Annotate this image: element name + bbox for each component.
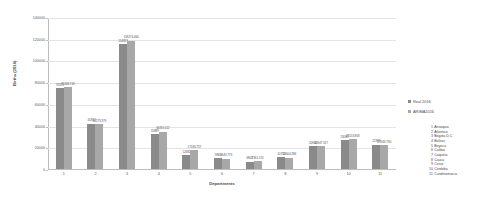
department-name: Cordoba bbox=[434, 167, 447, 171]
bar-value-label: 17180.757 bbox=[188, 146, 202, 149]
bar: 114823 bbox=[119, 44, 127, 169]
plot-area: 020000400006000080000100000120000140000 … bbox=[48, 18, 396, 170]
bar: 17180.757 bbox=[190, 150, 198, 169]
bar-value-label: 20947.317 bbox=[314, 142, 328, 145]
bar-group: 3188934416.112 bbox=[143, 18, 175, 169]
x-tick-label: 7 bbox=[238, 172, 270, 176]
y-tick-label: 100000 bbox=[12, 59, 45, 63]
y-tick-label: 40000 bbox=[12, 125, 45, 129]
bar: 41173.379 bbox=[95, 124, 103, 169]
x-tick-label: 11 bbox=[364, 172, 396, 176]
bar-group: 68027361.191 bbox=[238, 18, 270, 169]
x-tick-label: 3 bbox=[111, 172, 143, 176]
legend-label: Real 2016 bbox=[413, 99, 431, 104]
bar-group: 4183241173.379 bbox=[80, 18, 112, 169]
bar-value-label: 9643.773 bbox=[220, 154, 232, 157]
y-tick-label: 80000 bbox=[12, 81, 45, 85]
bar-value-label: 118274.460 bbox=[124, 36, 139, 39]
bar: 10604.384 bbox=[285, 158, 293, 170]
department-name: Caqueta bbox=[434, 153, 447, 157]
bar-value-label: 7361.191 bbox=[252, 157, 264, 160]
series-legend: Real 2016ARIMA2016 bbox=[408, 99, 434, 119]
bar: 12682 bbox=[182, 155, 190, 169]
bar: 7361.191 bbox=[254, 161, 262, 169]
x-tick-label: 4 bbox=[143, 172, 175, 176]
bar: 41832 bbox=[87, 124, 95, 169]
bar: 22389 bbox=[372, 145, 380, 169]
department-legend: 1Antioquia2Atlantico3Bogota D.C4Bolivar5… bbox=[428, 125, 457, 176]
department-name: Atlantico bbox=[434, 130, 447, 134]
bar: 20947.317 bbox=[317, 146, 325, 169]
legend-item[interactable]: Real 2016 bbox=[408, 99, 434, 104]
legend-swatch bbox=[408, 100, 411, 103]
y-tick-label: 20000 bbox=[12, 146, 45, 150]
x-axis-ticks: 1234567891011 bbox=[48, 172, 396, 176]
bar-value-label: 12682 bbox=[182, 151, 190, 154]
bar-groups: 7437075348.7494183241173.379114823118274… bbox=[48, 18, 396, 169]
department-name: Antioquia bbox=[434, 125, 449, 129]
department-name: Caldas bbox=[434, 148, 445, 152]
y-tick-label: 60000 bbox=[12, 103, 45, 107]
x-tick-label: 8 bbox=[269, 172, 301, 176]
bar: 21943.730 bbox=[380, 145, 388, 169]
department-name: Cesar bbox=[434, 162, 443, 166]
bar-value-label: 41173.379 bbox=[93, 120, 106, 123]
bar-group: 114823118274.460 bbox=[111, 18, 143, 169]
bar: 75348.749 bbox=[64, 87, 72, 169]
legend-swatch bbox=[408, 110, 411, 113]
bar-group: 2658927553.858 bbox=[333, 18, 365, 169]
bar: 27553.858 bbox=[349, 139, 357, 169]
bar-value-label: 10604.384 bbox=[282, 153, 296, 156]
bar-value-label: 27553.858 bbox=[346, 135, 360, 138]
bar: 9861 bbox=[214, 158, 222, 169]
bar-value-label: 34416.112 bbox=[156, 127, 169, 130]
x-tick-label: 5 bbox=[175, 172, 207, 176]
department-number: 11 bbox=[428, 172, 433, 177]
y-tick-label: 0 bbox=[12, 168, 45, 172]
x-tick-label: 2 bbox=[80, 172, 112, 176]
x-tick-label: 10 bbox=[333, 172, 365, 176]
bar-group: 1268217180.757 bbox=[175, 18, 207, 169]
bar-group: 7437075348.749 bbox=[48, 18, 80, 169]
y-tick-label: 140000 bbox=[12, 16, 45, 20]
bar: 26589 bbox=[341, 140, 349, 169]
department-name: Bogota D.C bbox=[434, 134, 452, 138]
bar: 9643.773 bbox=[222, 159, 230, 169]
department-name: Boyaca bbox=[434, 144, 446, 148]
y-tick-label: 120000 bbox=[12, 38, 45, 42]
bar-group: 98619643.773 bbox=[206, 18, 238, 169]
legend-label: ARIMA2016 bbox=[413, 109, 434, 114]
x-tick-label: 6 bbox=[206, 172, 238, 176]
bar: 74370 bbox=[56, 88, 64, 169]
bar-chart: Births (2016) 02000040000600008000010000… bbox=[0, 0, 490, 211]
bar: 31889 bbox=[151, 134, 159, 169]
bar-value-label: 75348.749 bbox=[61, 83, 75, 86]
bar: 6802 bbox=[246, 162, 254, 169]
department-name: Cundinamarca bbox=[434, 172, 457, 176]
y-tick-mark bbox=[46, 170, 48, 171]
bar-group: 1071210604.384 bbox=[269, 18, 301, 169]
bar-group: 2094020947.317 bbox=[301, 18, 333, 169]
bar: 34416.112 bbox=[159, 132, 167, 169]
x-axis-title: Departments bbox=[48, 181, 396, 186]
bar: 118274.460 bbox=[127, 41, 135, 169]
x-tick-label: 9 bbox=[301, 172, 333, 176]
bar-value-label: 21943.730 bbox=[377, 141, 391, 144]
bar: 10712 bbox=[277, 157, 285, 169]
bar-group: 2238921943.730 bbox=[364, 18, 396, 169]
department-name: Bolivar bbox=[434, 139, 445, 143]
bar: 20940 bbox=[309, 146, 317, 169]
department-name: Cauca bbox=[434, 158, 444, 162]
x-tick-label: 1 bbox=[48, 172, 80, 176]
legend-item[interactable]: ARIMA2016 bbox=[408, 109, 434, 114]
department-legend-item: 11Cundinamarca bbox=[428, 172, 457, 177]
